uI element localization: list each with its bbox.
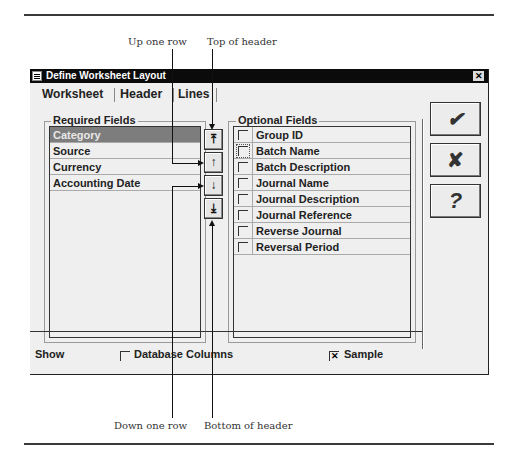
sample-label[interactable]: Sample <box>344 348 383 360</box>
checkbox-cell <box>234 175 253 191</box>
callout-up-one-row: Up one row <box>128 36 187 47</box>
arrow-up-icon: ↑ <box>211 155 217 169</box>
list-item-batch-name[interactable]: Batch Name <box>234 143 410 159</box>
up-one-row-button[interactable]: ↑ <box>204 152 223 173</box>
batch-name-label: Batch Name <box>256 143 320 159</box>
define-worksheet-layout-dialog: Define Worksheet Layout ✕ Worksheet Head… <box>30 69 489 375</box>
close-button[interactable]: ✕ <box>473 71 484 81</box>
optional-fields-list[interactable]: Group ID Batch Name Batch Description Jo… <box>233 126 411 338</box>
arrow-up-one-row <box>198 160 204 166</box>
database-columns-checkbox[interactable] <box>120 351 130 361</box>
list-item-journal-description[interactable]: Journal Description <box>234 191 410 207</box>
tab-divider <box>173 88 174 102</box>
journal-reference-checkbox[interactable] <box>238 210 248 220</box>
tab-lines[interactable]: Lines <box>178 87 209 101</box>
batch-name-checkbox[interactable] <box>238 146 248 156</box>
callout-top-of-header: Top of header <box>207 36 277 47</box>
question-mark-icon: ? <box>449 188 462 213</box>
show-label: Show <box>35 348 64 360</box>
ok-button[interactable]: ✔ <box>430 102 481 136</box>
sample-checkbox[interactable]: ✕ <box>329 351 339 361</box>
checkmark-icon: ✔ <box>447 108 464 130</box>
list-item-batch-description[interactable]: Batch Description <box>234 159 410 175</box>
x-mark-icon: ✘ <box>447 149 464 171</box>
database-columns-label[interactable]: Database Columns <box>134 348 233 360</box>
batch-description-checkbox[interactable] <box>238 162 248 172</box>
dialog-title: Define Worksheet Layout <box>46 69 166 83</box>
top-rule <box>24 14 494 16</box>
journal-description-checkbox[interactable] <box>238 194 248 204</box>
journal-reference-label: Journal Reference <box>256 207 352 223</box>
list-item-accounting-date[interactable]: Accounting Date <box>50 175 200 191</box>
callout-down-one-row: Down one row <box>114 420 187 431</box>
arrow-top-of-header <box>209 124 215 130</box>
checkbox-cell <box>234 191 253 207</box>
journal-description-label: Journal Description <box>256 191 359 207</box>
batch-description-label: Batch Description <box>256 159 350 175</box>
leader-down-one-row <box>172 186 173 418</box>
tab-divider <box>114 88 115 102</box>
optional-fields-label: Optional Fields <box>236 114 319 126</box>
checkbox-cell <box>234 239 253 255</box>
journal-name-label: Journal Name <box>256 175 329 191</box>
leader-up-one-row <box>172 49 173 163</box>
checkbox-cell <box>234 159 253 175</box>
checkbox-cell <box>234 143 253 159</box>
list-item-group-id[interactable]: Group ID <box>234 127 410 143</box>
list-item-reverse-journal[interactable]: Reverse Journal <box>234 223 410 239</box>
leader-top-of-header <box>212 49 213 127</box>
journal-name-checkbox[interactable] <box>238 178 248 188</box>
leader-bottom-of-header <box>212 225 213 418</box>
help-button[interactable]: ? <box>430 184 481 218</box>
checkbox-cell <box>234 223 253 239</box>
checkbox-cell <box>234 127 253 143</box>
arrow-bottom-of-header <box>209 220 215 226</box>
system-menu-icon[interactable] <box>32 71 42 81</box>
bottom-of-header-button[interactable]: ⤓ <box>204 198 223 219</box>
group-id-checkbox[interactable] <box>238 130 248 140</box>
arrow-to-top-icon: ⤒ <box>211 132 216 146</box>
required-fields-label: Required Fields <box>51 114 138 126</box>
arrow-down-icon: ↓ <box>211 178 217 192</box>
list-item-reversal-period[interactable]: Reversal Period <box>234 239 410 255</box>
leader-up-one-row-h <box>172 163 200 164</box>
reverse-journal-label: Reverse Journal <box>256 223 342 239</box>
callout-bottom-of-header: Bottom of header <box>204 420 292 431</box>
horizontal-divider <box>30 331 422 332</box>
group-id-label: Group ID <box>256 127 303 143</box>
vertical-divider <box>422 119 423 349</box>
reversal-period-label: Reversal Period <box>256 239 339 255</box>
arrow-to-bottom-icon: ⤓ <box>211 201 216 215</box>
required-fields-list[interactable]: Category Source Currency Accounting Date <box>49 126 201 338</box>
tab-divider <box>216 88 217 102</box>
list-item-journal-name[interactable]: Journal Name <box>234 175 410 191</box>
list-item-currency[interactable]: Currency <box>50 159 200 175</box>
bottom-rule <box>24 443 494 445</box>
reversal-period-checkbox[interactable] <box>238 242 248 252</box>
reverse-journal-checkbox[interactable] <box>238 226 248 236</box>
tab-header[interactable]: Header <box>120 87 162 101</box>
down-one-row-button[interactable]: ↓ <box>204 175 223 196</box>
list-item-journal-reference[interactable]: Journal Reference <box>234 207 410 223</box>
leader-down-one-row-h <box>172 186 200 187</box>
list-item-category[interactable]: Category <box>50 127 200 143</box>
tab-worksheet[interactable]: Worksheet <box>42 87 103 101</box>
arrow-down-one-row <box>198 183 204 189</box>
checkbox-cell <box>234 207 253 223</box>
cancel-button[interactable]: ✘ <box>430 143 481 177</box>
list-item-source[interactable]: Source <box>50 143 200 159</box>
title-bar[interactable]: Define Worksheet Layout ✕ <box>30 69 488 83</box>
top-of-header-button[interactable]: ⤒ <box>204 129 223 150</box>
